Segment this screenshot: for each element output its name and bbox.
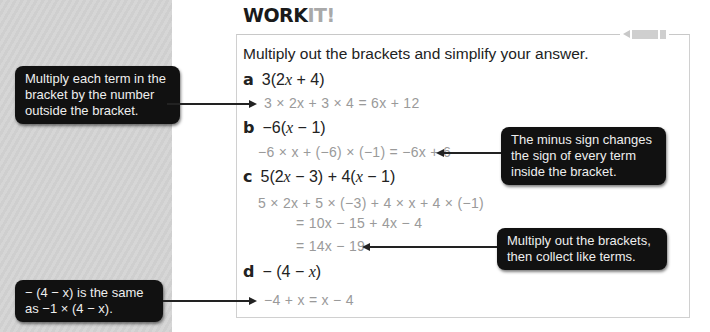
arrow-icon bbox=[442, 152, 501, 154]
working-b: −6 × x + (−6) × (−1) = −6x + 6 bbox=[258, 144, 451, 160]
callout-minus-sign: The minus sign changes the sign of every… bbox=[501, 127, 666, 185]
working-c-2: = 10x − 15 + 4x − 4 bbox=[296, 215, 422, 231]
instruction: Multiply out the brackets and simplify y… bbox=[243, 45, 588, 63]
working-a: 3 × 2x + 3 × 4 = 6x + 12 bbox=[264, 95, 419, 111]
question-d: d− (4 − x) bbox=[243, 262, 321, 281]
title-main: WORK bbox=[243, 4, 307, 26]
question-a: a3(2x + 4) bbox=[243, 70, 325, 89]
arrow-icon bbox=[167, 103, 251, 105]
callout-multiply-each: Multiply each term in the bracket by the… bbox=[15, 66, 180, 124]
callout-same-as: − (4 − x) is the same as −1 × (4 − x). bbox=[15, 280, 163, 322]
pencil-icon bbox=[620, 29, 669, 39]
page-title: WORKIT! bbox=[243, 4, 335, 26]
working-c-3: = 14x − 19 bbox=[296, 238, 365, 254]
arrow-icon bbox=[163, 300, 251, 302]
question-b: b−6(x − 1) bbox=[243, 118, 326, 137]
title-accent: IT! bbox=[307, 4, 334, 26]
question-c: c5(2x − 3) + 4(x − 1) bbox=[243, 167, 395, 186]
arrow-icon bbox=[368, 246, 497, 248]
callout-collect: Multiply out the brackets, then collect … bbox=[497, 228, 667, 270]
working-d: −4 + x = x − 4 bbox=[264, 292, 354, 308]
working-c-1: 5 × 2x + 5 × (−3) + 4 × x + 4 × (−1) bbox=[258, 195, 484, 211]
